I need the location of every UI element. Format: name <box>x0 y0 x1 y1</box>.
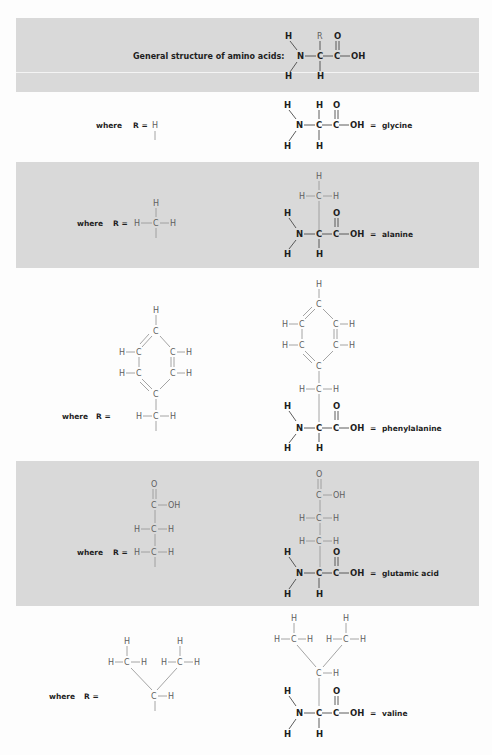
atom-c: C <box>316 423 322 433</box>
r-atom-h: H <box>274 635 280 644</box>
atom-h: H <box>284 686 291 696</box>
r-atom-c: C <box>124 658 130 667</box>
r-atom-h: H <box>134 548 140 557</box>
r-atom-h: H <box>152 121 158 130</box>
atom-o: O <box>333 401 340 411</box>
r-equals: R = <box>96 412 111 421</box>
r-atom-h: H <box>134 219 140 228</box>
atom-c: C <box>333 120 339 130</box>
atom-r: R <box>317 32 323 41</box>
r-atom-c: C <box>170 348 176 357</box>
general-structure: General structure of amino acids: H N H … <box>133 31 365 81</box>
alanine-row: where R = H H C H H H C H H N H C H O C … <box>77 172 413 259</box>
r-atom-h: H <box>186 348 192 357</box>
r-atom-c: C <box>151 548 157 557</box>
atom-h: H <box>284 141 291 151</box>
r-atom-c: C <box>316 192 322 201</box>
atom-c: C <box>316 568 322 578</box>
atom-n: N <box>296 120 303 130</box>
r-atom-h: H <box>170 219 176 228</box>
r-atom-oh: OH <box>333 491 345 500</box>
atom-c: C <box>334 51 340 61</box>
r-atom-h: H <box>316 172 322 181</box>
r-atom-h: H <box>168 548 174 557</box>
r-atom-h: H <box>282 320 288 329</box>
atom-h: H <box>284 589 291 599</box>
r-atom-h: H <box>161 658 167 667</box>
where-label: where <box>77 548 103 557</box>
atom-n: N <box>296 708 303 718</box>
r-atom-h: H <box>349 320 355 329</box>
r-atom-o: O <box>151 480 157 489</box>
r-atom-h: H <box>124 637 130 646</box>
r-atom-c: C <box>316 300 322 309</box>
r-atom-h: H <box>134 525 140 534</box>
atom-h: H <box>316 443 323 453</box>
atom-h: H <box>284 249 291 259</box>
atom-c: C <box>333 708 339 718</box>
r-atom-c: C <box>151 501 157 510</box>
where-label: where <box>62 412 88 421</box>
r-atom-c: C <box>333 320 339 329</box>
amino-acid-name: phenylalanine <box>382 424 442 433</box>
phenylalanine-row: where R = H C H C C H H C C H C H C H H … <box>62 280 442 453</box>
r-atom-h: H <box>349 341 355 350</box>
r-atom-h: H <box>141 658 147 667</box>
r-atom-c: C <box>177 658 183 667</box>
r-atom-c: C <box>153 412 159 421</box>
atom-h: H <box>316 141 323 151</box>
r-atom-c: C <box>316 385 322 394</box>
r-atom-h: H <box>299 385 305 394</box>
r-atom-h: H <box>333 669 339 678</box>
where-label: where <box>77 219 103 228</box>
atom-o: O <box>333 100 340 110</box>
equals-sign: = <box>370 121 376 130</box>
where-label: where <box>96 121 122 130</box>
r-atom-h: H <box>333 537 339 546</box>
r-atom-h: H <box>153 306 159 315</box>
r-atom-h: H <box>194 658 200 667</box>
r-atom-h: H <box>177 637 183 646</box>
equals-sign: = <box>370 230 376 239</box>
r-equals: R = <box>113 219 128 228</box>
r-atom-c: C <box>151 525 157 534</box>
r-equals: R = <box>133 121 148 130</box>
atom-h: H <box>284 443 291 453</box>
glycine-row: where R = H H N H H C H O C OH = glycine <box>96 100 412 151</box>
atom-h: H <box>317 71 324 81</box>
r-atom-h: H <box>170 412 176 421</box>
atom-c: C <box>333 568 339 578</box>
equals-sign: = <box>370 424 376 433</box>
r-atom-h: H <box>108 658 114 667</box>
atom-h: H <box>284 401 291 411</box>
r-atom-h: H <box>299 192 305 201</box>
atom-c: C <box>333 423 339 433</box>
atom-h: H <box>284 208 291 218</box>
r-atom-c: C <box>153 219 159 228</box>
atom-oh: OH <box>350 568 364 578</box>
atom-n: N <box>296 229 303 239</box>
atom-oh: OH <box>350 423 364 433</box>
r-atom-c: C <box>316 537 322 546</box>
atom-o: O <box>333 686 340 696</box>
atom-c: C <box>317 51 323 61</box>
r-atom-h: H <box>136 412 142 421</box>
r-atom-h: H <box>168 525 174 534</box>
r-atom-h: H <box>360 635 366 644</box>
atom-n: N <box>297 51 304 61</box>
r-atom-c: C <box>333 341 339 350</box>
r-atom-h: H <box>168 692 174 701</box>
r-equals: R = <box>84 692 99 701</box>
atom-h: H <box>285 31 292 41</box>
r-atom-h: H <box>299 514 305 523</box>
r-atom-c: C <box>291 635 297 644</box>
atom-h: H <box>285 71 292 81</box>
r-atom-c: C <box>136 369 142 378</box>
r-atom-c: C <box>316 514 322 523</box>
where-label: where <box>49 692 75 701</box>
atom-h: H <box>316 589 323 599</box>
page-title: General structure of amino acids: <box>133 52 284 61</box>
atom-h: H <box>316 100 323 110</box>
atom-c: C <box>316 708 322 718</box>
atom-h: H <box>284 729 291 739</box>
